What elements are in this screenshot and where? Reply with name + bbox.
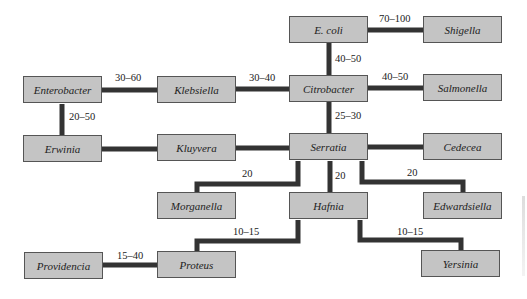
node-proteus: Proteus [157, 251, 236, 278]
edge-label-ecoli-citrobacter: 40–50 [335, 53, 361, 64]
node-edwardsiella: Edwardsiella [423, 192, 502, 219]
edge-label-enterobacter-erwinia: 20–50 [69, 111, 95, 122]
edge-label-serratia-morganella: 20 [242, 168, 253, 179]
node-yersinia: Yersinia [421, 250, 500, 277]
node-cedecea: Cedecea [423, 133, 502, 160]
bacteria-relationship-diagram: E. coli Shigella Enterobacter Klebsiella… [0, 0, 527, 299]
edge-label-serratia-edwardsiella: 20 [407, 167, 418, 178]
node-enterobacter: Enterobacter [23, 76, 102, 103]
node-citrobacter: Citrobacter [289, 75, 368, 102]
edge-label-providencia-proteus: 15–40 [117, 250, 143, 261]
edge-label-klebsiella-citrobacter: 30–40 [249, 72, 275, 83]
node-shigella: Shigella [423, 16, 502, 43]
node-ecoli: E. coli [289, 16, 368, 43]
node-erwinia: Erwinia [23, 135, 102, 162]
node-morganella: Morganella [157, 192, 236, 219]
edge-label-enterobacter-klebsiella: 30–60 [115, 72, 141, 83]
edge-label-citrobacter-serratia: 25–30 [335, 110, 361, 121]
node-providencia: Providencia [24, 252, 103, 279]
edge-label-hafnia-yersinia: 10–15 [397, 226, 423, 237]
edge-label-hafnia-proteus: 10–15 [233, 226, 259, 237]
edge-label-serratia-hafnia: 20 [335, 170, 346, 181]
node-klebsiella: Klebsiella [157, 76, 236, 103]
node-hafnia: Hafnia [289, 192, 368, 219]
node-serratia: Serratia [289, 133, 368, 160]
node-kluyvera: Kluyvera [157, 134, 236, 161]
scan-artifact [522, 196, 525, 276]
edge-label-ecoli-shigella: 70–100 [379, 13, 411, 24]
edge-label-citrobacter-salmonella: 40–50 [382, 71, 408, 82]
node-salmonella: Salmonella [423, 74, 502, 101]
